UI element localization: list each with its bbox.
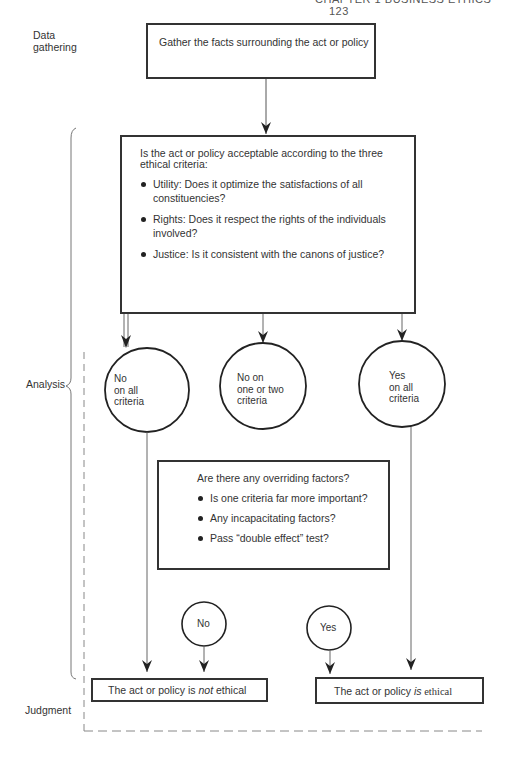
gather-facts-box: Gather the facts surrounding the act or … [146,23,376,79]
outcome-yes-all-line3: criteria [389,393,419,405]
page-number: 123 [329,5,349,17]
outcome-yes-all-line2: on all [389,382,419,394]
judgment-ethical-prefix: The act or policy [334,685,414,697]
judgment-not-ethical-emphasis: not [198,684,213,696]
overriding-factors-box: Are there any overriding factors? Is one… [157,460,390,570]
outcome-yes-all-line1: Yes [389,370,419,382]
criteria-item-rights: Rights: Does it respect the rights of th… [140,212,400,240]
judgment-not-ethical-box: The act or policy is not ethical [91,678,268,702]
page-header: CHAPTER 1 BUSINESS ETHICS 123 [315,0,509,17]
stage-label-analysis: Analysis [26,378,65,390]
ethical-criteria-box: Is the act or policy acceptable accordin… [120,135,416,314]
outcome-no-some-line2: one or two [237,384,284,396]
judgment-ethical-text: The act or policy is ethical [334,685,452,699]
outcome-no-some: No on one or two criteria [237,372,284,407]
criteria-item-justice: Justice: Is it consistent with the canon… [140,247,400,261]
stage-label-data-gathering: Data gathering [33,29,77,53]
judgment-ethical-suffix: ethical [422,686,453,697]
outcome-no-all-line2: on all [114,385,144,397]
criteria-question: Is the act or policy acceptable accordin… [140,148,400,170]
judgment-ethical-box: The act or policy is ethical [315,677,484,704]
gather-facts-text: Gather the facts surrounding the act or … [159,36,369,49]
outcome-no-all-line3: criteria [114,396,144,408]
overriding-list: Is one criteria far more important? Any … [197,491,387,545]
criteria-list: Utility: Does it optimize the satisfacti… [140,177,400,261]
judgment-not-ethical-prefix: The act or policy is [108,684,198,696]
decision-no-label: No [197,618,210,630]
judgment-ethical-emphasis: is [414,685,422,697]
overriding-question: Are there any overriding factors? [197,472,387,485]
judgment-not-ethical-text: The act or policy is not ethical [108,684,246,697]
stage-label-judgment: Judgment [25,704,71,716]
overriding-item-incapacitating: Any incapacitating factors? [197,511,387,525]
criteria-item-utility: Utility: Does it optimize the satisfacti… [140,177,400,205]
analysis-brace [66,128,76,679]
outcome-no-some-line1: No on [237,372,284,384]
arrow-to-no-all [121,335,131,348]
decision-yes-label: Yes [320,622,336,634]
outcome-no-all: No on all criteria [114,373,144,408]
judgment-not-ethical-suffix: ethical [213,684,246,696]
outcome-no-some-line3: criteria [237,395,284,407]
outcome-no-all-line1: No [114,373,144,385]
overriding-item-double-effect: Pass “double effect” test? [197,531,387,545]
overriding-item-importance: Is one criteria far more important? [197,491,387,505]
outcome-yes-all: Yes on all criteria [389,370,419,405]
